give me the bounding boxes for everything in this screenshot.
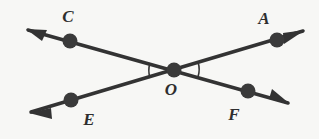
point-label-e: E [82,110,94,129]
point-dot-o [167,63,182,78]
diagram-canvas: C A O E F [0,0,319,139]
line-cf-start-arrowhead [26,29,47,41]
point-dot-f [241,84,256,99]
angle-arc-aof [198,62,199,77]
point-label-o: O [165,80,177,99]
line-ea-end-arrowhead [283,30,305,44]
point-dot-e [64,93,79,108]
point-label-c: C [62,7,74,26]
point-dot-a [270,33,285,48]
point-label-f: F [227,105,240,124]
point-label-a: A [257,9,269,28]
point-dot-c [63,34,78,49]
angle-arc-coe [149,63,150,78]
geometry-figure: C A O E F [0,0,319,139]
